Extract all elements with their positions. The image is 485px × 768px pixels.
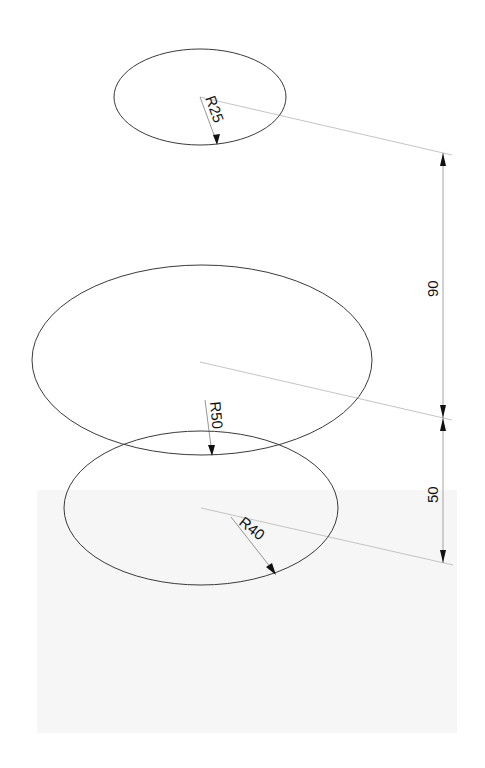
arrowhead-50-top	[440, 418, 446, 431]
circle-middle: R50	[32, 265, 372, 456]
technical-drawing: R25 R50 R40 90 50	[0, 0, 485, 768]
radius-label-r25: R25	[202, 93, 227, 125]
extension-line-top	[200, 97, 452, 155]
dimension-line: 90 50	[424, 153, 446, 563]
dimension-label-90: 90	[424, 280, 441, 297]
circle-top: R25	[114, 49, 286, 145]
arrowhead-90-top	[440, 153, 446, 166]
arrowhead-r25	[213, 134, 220, 145]
dimension-label-50: 50	[424, 486, 441, 503]
extension-line-middle	[200, 362, 452, 420]
radius-label-r50: R50	[207, 401, 226, 430]
arrowhead-90-bottom	[440, 405, 446, 418]
ellipse-r50	[32, 265, 372, 455]
